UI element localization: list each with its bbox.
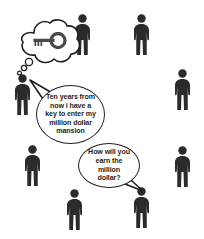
speech-bubble-mansion: Ten years from now i have a key to enter… — [36, 85, 105, 144]
speech-bubble-question: How will you earn the million dollar? — [78, 143, 140, 188]
person-figure-man-right-lower — [172, 146, 193, 188]
person-figure-man-bottom-left — [64, 189, 85, 231]
speech-bubble-question-text: How will you earn the million dollar? — [79, 148, 139, 183]
key-icon — [32, 32, 67, 53]
speech-bubble-mansion-text: Ten years from now i have a key to enter… — [37, 93, 104, 136]
person-figure-man-right-upper — [172, 69, 193, 111]
thought-bubble — [14, 17, 82, 83]
illustration-canvas: Ten years from now i have a key to enter… — [0, 0, 204, 239]
person-figure-man-lower-left — [22, 145, 43, 187]
person-figure-man-top-right — [131, 14, 152, 56]
